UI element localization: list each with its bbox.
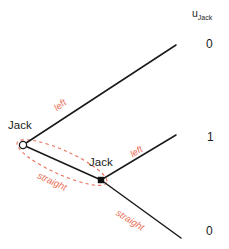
payoff-header-subscript: Jack: [198, 14, 212, 21]
payoff-value-middle: 1: [207, 131, 214, 143]
game-tree-figure: Jack Jack left straight left straight uJ…: [0, 0, 229, 249]
payoff-value-top: 0: [206, 38, 213, 50]
node-label-jack-2: Jack: [89, 157, 113, 169]
tree-branches: [23, 45, 181, 238]
node-open-circle-jack: [19, 141, 26, 148]
branch-n1-left: [23, 45, 176, 145]
payoff-column-header: uJack: [192, 8, 212, 21]
tree-graphics: [0, 0, 229, 249]
node-label-jack-1: Jack: [8, 120, 32, 132]
node-filled-square-jack: [98, 177, 104, 183]
payoff-value-bottom: 0: [206, 225, 213, 237]
